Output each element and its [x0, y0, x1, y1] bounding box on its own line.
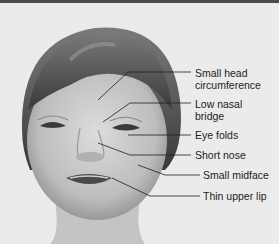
label-small-head-circumference: Small head circumference	[195, 67, 261, 91]
label-low-nasal-bridge: Low nasal bridge	[195, 98, 242, 122]
label-thin-upper-lip: Thin upper lip	[203, 190, 267, 202]
label-small-midface: Small midface	[203, 169, 269, 181]
diagram-frame: Small head circumference Low nasal bridg…	[0, 0, 279, 244]
face-illustration	[0, 0, 279, 244]
label-eye-folds: Eye folds	[195, 129, 238, 141]
label-short-nose: Short nose	[195, 149, 246, 161]
